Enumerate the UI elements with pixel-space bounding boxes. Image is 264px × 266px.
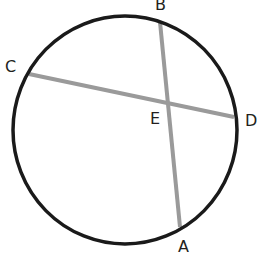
- label-c: C: [5, 57, 16, 76]
- label-e: E: [150, 109, 160, 128]
- circle-diagram: B C E D A: [0, 0, 264, 266]
- chord-ba: [160, 22, 180, 227]
- chord-cd: [29, 74, 234, 117]
- label-b: B: [155, 0, 166, 14]
- circle: [13, 16, 237, 244]
- label-a: A: [178, 237, 189, 256]
- label-d: D: [245, 111, 257, 130]
